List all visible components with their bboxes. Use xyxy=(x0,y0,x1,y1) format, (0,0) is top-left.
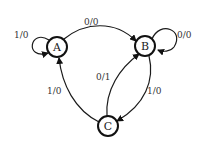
edge-label-c-b: 0/1 xyxy=(96,72,110,82)
edge-b-c xyxy=(117,56,151,121)
edge-label-a-a: 1/0 xyxy=(14,30,29,40)
state-node-a: A xyxy=(47,37,67,57)
state-label-a: A xyxy=(52,41,62,54)
state-label-b: B xyxy=(141,40,149,53)
edge-label-c-a: 1/0 xyxy=(47,86,62,96)
edge-c-b xyxy=(107,54,139,116)
state-node-c: C xyxy=(98,116,118,136)
edge-c-a xyxy=(59,58,99,122)
edge-label-a-b: 0/0 xyxy=(84,17,99,27)
edge-label-b-c: 1/0 xyxy=(147,86,162,96)
state-node-b: B xyxy=(135,36,155,56)
state-label-c: C xyxy=(104,120,112,133)
edge-a-b xyxy=(64,26,136,41)
state-diagram: 1/0 0/0 0/0 0/1 1/0 1/0 A B C xyxy=(0,0,203,150)
edge-label-b-b: 0/0 xyxy=(177,30,192,40)
